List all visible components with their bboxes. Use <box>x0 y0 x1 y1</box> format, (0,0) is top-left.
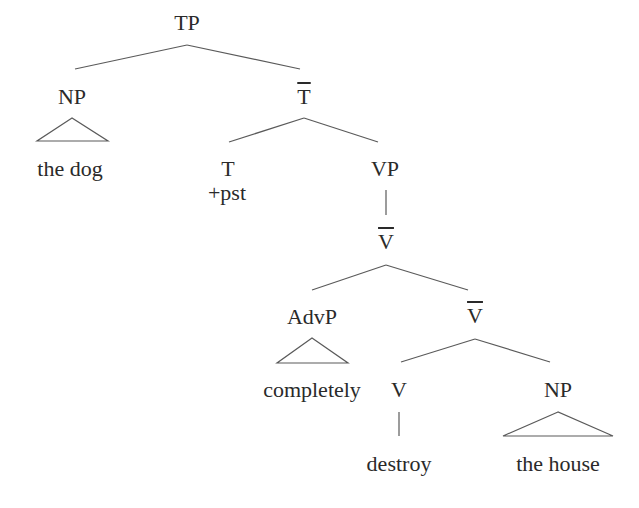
node-vp: VP <box>371 158 399 180</box>
np-subject-triangle <box>37 118 108 141</box>
edge-tbar-vp <box>304 118 378 142</box>
advp-triangle <box>277 338 348 363</box>
yield-destroy: destroy <box>367 453 432 475</box>
node-v-bar-lower: V <box>467 305 483 327</box>
edge-tp-tbar <box>187 45 300 69</box>
np-object-triangle <box>503 412 613 436</box>
node-t: T <box>221 158 234 180</box>
edge-vbar-advp <box>312 265 386 290</box>
node-advp: AdvP <box>287 306 337 328</box>
node-tp: TP <box>174 12 200 34</box>
node-v: V <box>391 379 407 401</box>
yield-the-dog: the dog <box>37 158 102 180</box>
node-t-bar: T <box>297 86 310 108</box>
yield-completely: completely <box>263 379 361 401</box>
node-np-subject: NP <box>58 86 86 108</box>
node-v-bar-upper: V <box>378 231 394 253</box>
edge-vbar-v <box>401 339 475 362</box>
edge-vbar-vbar <box>386 265 468 290</box>
edge-tp-np <box>75 45 187 69</box>
edge-vbar-np <box>475 339 550 362</box>
edge-tbar-t <box>229 118 304 142</box>
feature-pst: +pst <box>208 182 246 204</box>
node-np-object: NP <box>544 379 572 401</box>
yield-the-house: the house <box>516 453 600 475</box>
syntax-tree-edges <box>0 0 639 508</box>
